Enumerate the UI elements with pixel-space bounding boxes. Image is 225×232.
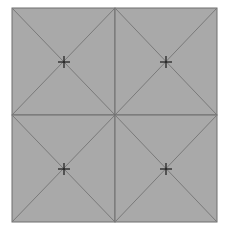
tiled-grid-diagram [0,0,225,232]
